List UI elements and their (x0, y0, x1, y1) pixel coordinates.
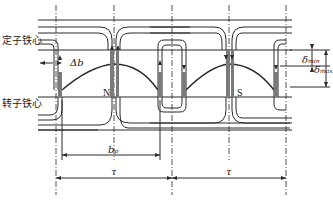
motor-gap-diagram (0, 0, 333, 200)
diagram-canvas: 定子铁心 转子铁心 Δb N S δmin δmax bp τ τ (0, 0, 333, 200)
pole-pitch-label-2: τ (226, 167, 232, 177)
stator-core-label: 定子铁心 (2, 36, 42, 46)
pole-width-label: bp (108, 145, 118, 155)
n-pole-label: N (103, 88, 110, 98)
delta-max-label: δmax (314, 65, 333, 75)
s-pole-label: S (237, 88, 243, 98)
delta-b-label: Δb (70, 58, 84, 68)
pole-pitch-label-1: τ (111, 167, 117, 177)
rotor-core-label: 转子铁心 (2, 99, 42, 109)
pole-bars (58, 50, 278, 97)
